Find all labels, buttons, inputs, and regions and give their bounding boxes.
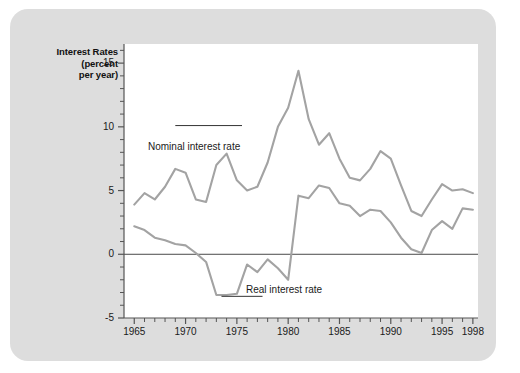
series-label-nominal: Nominal interest rate bbox=[148, 142, 240, 152]
y-tick-label-5: 5 bbox=[88, 186, 114, 196]
series-group bbox=[134, 71, 473, 295]
x-tick-label-1975: 1975 bbox=[217, 327, 257, 337]
series-label-real: Real interest rate bbox=[246, 285, 322, 295]
plot-area bbox=[124, 44, 478, 318]
x-tick-label-1998: 1998 bbox=[453, 327, 493, 337]
y-tick-label-15: 15 bbox=[88, 58, 114, 68]
y-axis-title-line3: per year) bbox=[79, 69, 118, 80]
y-axis-title-line1: Interest Rates bbox=[57, 46, 118, 57]
y-tick-label-neg5: -5 bbox=[88, 313, 114, 323]
x-tick-label-1980: 1980 bbox=[268, 327, 308, 337]
series-line-real bbox=[134, 185, 473, 295]
x-tick-label-1985: 1985 bbox=[319, 327, 359, 337]
figure-container: Interest Rates (percent per year) -50510… bbox=[0, 0, 520, 373]
x-tick-label-1965: 1965 bbox=[114, 327, 154, 337]
y-tick-label-0: 0 bbox=[88, 249, 114, 259]
y-tick-label-10: 10 bbox=[88, 122, 114, 132]
chart-plot-svg bbox=[124, 44, 478, 318]
x-tick-label-1990: 1990 bbox=[371, 327, 411, 337]
x-tick-label-1970: 1970 bbox=[166, 327, 206, 337]
